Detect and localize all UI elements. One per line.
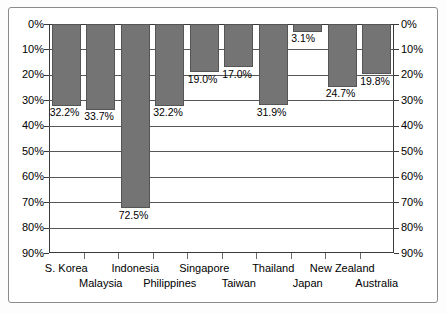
bar-taiwan [224, 24, 253, 67]
x-tickmark-3 [153, 253, 154, 259]
data-label-japan: 3.1% [291, 33, 315, 44]
y-tickmark-right-40 [394, 126, 399, 127]
y-tickmark-left-60 [44, 177, 49, 178]
y-tick-right-70: 70% [401, 197, 445, 208]
gridline-50 [49, 151, 394, 152]
y-tick-left-50: 50% [4, 146, 44, 157]
gridline-60 [49, 177, 394, 178]
data-label-thailand: 31.9% [257, 107, 287, 118]
data-label-singapore: 19.0% [188, 74, 218, 85]
x-tickmark-5 [222, 253, 223, 259]
y-tick-right-20: 20% [401, 69, 445, 80]
bar-new-zealand [328, 24, 357, 87]
y-tickmark-right-70 [394, 202, 399, 203]
y-tick-right-40: 40% [401, 120, 445, 131]
x-tickmark-9 [360, 253, 361, 259]
y-tick-left-20: 20% [4, 69, 44, 80]
y-tickmark-left-10 [44, 49, 49, 50]
data-label-philippines: 32.2% [153, 107, 183, 118]
x-tickmark-1 [84, 253, 85, 259]
bar-thailand [259, 24, 288, 105]
y-tickmark-left-50 [44, 151, 49, 152]
y-tick-right-60: 60% [401, 171, 445, 182]
y-tick-right-0: 0% [401, 19, 445, 30]
x-label-japan: Japan [268, 277, 348, 289]
data-label-indonesia: 72.5% [119, 210, 149, 221]
data-label-australia: 19.8% [360, 76, 390, 87]
y-tickmark-left-90 [44, 253, 49, 254]
y-tick-left-60: 60% [4, 171, 44, 182]
y-tick-right-50: 50% [401, 146, 445, 157]
y-tickmark-right-30 [394, 100, 399, 101]
y-tickmark-left-80 [44, 228, 49, 229]
plot-area [49, 24, 394, 253]
chart-screenshot: 0%10%20%30%40%50%60%70%80%90% 0%10%20%30… [0, 0, 447, 314]
y-tick-left-0: 0% [4, 19, 44, 30]
bar-malaysia [86, 24, 115, 110]
y-tickmark-left-0 [44, 24, 49, 25]
x-label-taiwan: Taiwan [199, 277, 279, 289]
y-tick-right-90: 90% [401, 248, 445, 259]
x-tickmark-8 [325, 253, 326, 259]
x-label-australia: Australia [337, 277, 417, 289]
x-label-thailand: Thailand [233, 262, 313, 274]
data-label-taiwan: 17.0% [222, 69, 252, 80]
y-tick-left-10: 10% [4, 44, 44, 55]
y-tick-left-40: 40% [4, 120, 44, 131]
y-tickmark-right-10 [394, 49, 399, 50]
x-label-philippines: Philippines [130, 277, 210, 289]
x-label-malaysia: Malaysia [61, 277, 141, 289]
gridline-80 [49, 228, 394, 229]
y-tickmark-right-90 [394, 253, 399, 254]
bar-japan [293, 24, 322, 32]
x-tickmark-4 [187, 253, 188, 259]
y-tick-left-90: 90% [4, 248, 44, 259]
bar-s-korea [52, 24, 81, 106]
gridline-40 [49, 126, 394, 127]
data-label-new-zealand: 24.7% [326, 88, 356, 99]
y-tickmark-right-20 [394, 75, 399, 76]
y-tick-left-80: 80% [4, 222, 44, 233]
y-tick-left-30: 30% [4, 95, 44, 106]
y-tickmark-right-60 [394, 177, 399, 178]
y-tickmark-left-30 [44, 100, 49, 101]
y-tickmark-right-0 [394, 24, 399, 25]
bar-australia [362, 24, 391, 74]
y-tick-right-30: 30% [401, 95, 445, 106]
data-label-s-korea: 32.2% [50, 107, 80, 118]
x-tickmark-6 [256, 253, 257, 259]
x-label-indonesia: Indonesia [95, 262, 175, 274]
y-tick-right-10: 10% [401, 44, 445, 55]
y-tickmark-right-50 [394, 151, 399, 152]
x-label-s-korea: S. Korea [26, 262, 106, 274]
y-tickmark-left-70 [44, 202, 49, 203]
y-tickmark-left-20 [44, 75, 49, 76]
y-tick-right-80: 80% [401, 222, 445, 233]
y-tickmark-left-40 [44, 126, 49, 127]
x-tickmark-2 [118, 253, 119, 259]
data-label-malaysia: 33.7% [84, 111, 114, 122]
x-tickmark-7 [291, 253, 292, 259]
y-tick-left-70: 70% [4, 197, 44, 208]
bar-philippines [155, 24, 184, 106]
bar-indonesia [121, 24, 150, 208]
y-tickmark-right-80 [394, 228, 399, 229]
gridline-70 [49, 202, 394, 203]
x-label-new-zealand: New Zealand [302, 262, 382, 274]
bar-singapore [190, 24, 219, 72]
x-label-singapore: Singapore [164, 262, 244, 274]
